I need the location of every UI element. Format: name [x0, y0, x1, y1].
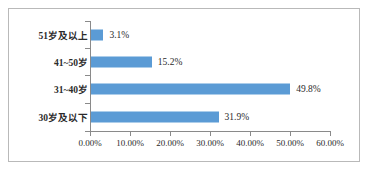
bar-row: 30岁及以下 31.9%	[9, 103, 361, 130]
x-axis-tick	[130, 131, 131, 136]
x-axis-tick-label: 10.00%	[116, 138, 144, 148]
x-axis-tick	[170, 131, 171, 136]
x-axis-tick	[250, 131, 251, 136]
x-axis-tick	[330, 131, 331, 136]
bar-31-40	[91, 83, 290, 94]
x-axis-tick-label: 50.00%	[276, 138, 304, 148]
bar-41-50	[91, 56, 152, 67]
category-label: 30岁及以下	[39, 110, 89, 124]
bar-value-label: 15.2%	[158, 57, 183, 67]
x-axis-tick-label: 20.00%	[156, 138, 184, 148]
bar-row: 41~50岁 15.2%	[9, 48, 361, 75]
x-axis-tick	[210, 131, 211, 136]
bar-30-and-below	[91, 111, 219, 122]
chart-frame: 51岁及以上 3.1% 41~50岁 15.2% 31~40岁 49.8% 30…	[8, 8, 360, 162]
bar-row: 31~40岁 49.8%	[9, 75, 361, 102]
bar-value-label: 3.1%	[109, 30, 129, 40]
x-axis-tick	[90, 131, 91, 136]
bar-value-label: 49.8%	[296, 84, 321, 94]
x-axis-tick-label: 40.00%	[236, 138, 264, 148]
x-axis-tick-label: 60.00%	[316, 138, 344, 148]
bar-51-and-above	[91, 29, 103, 40]
bar-row: 51岁及以上 3.1%	[9, 21, 361, 48]
x-axis-tick	[290, 131, 291, 136]
category-label: 51岁及以上	[39, 28, 89, 42]
bar-value-label: 31.9%	[225, 112, 250, 122]
x-axis-tick-label: 0.00%	[78, 138, 101, 148]
bar-chart-plot-area: 51岁及以上 3.1% 41~50岁 15.2% 31~40岁 49.8% 30…	[9, 9, 361, 163]
category-label: 41~50岁	[54, 55, 88, 69]
category-label: 31~40岁	[54, 82, 88, 96]
x-axis-tick-label: 30.00%	[196, 138, 224, 148]
